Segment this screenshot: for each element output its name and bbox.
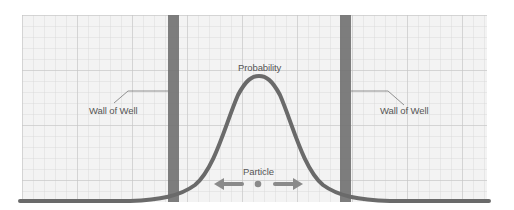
right-wall-label: Wall of Well <box>380 105 428 116</box>
right-wall <box>340 15 351 202</box>
left-wall <box>168 15 179 202</box>
particle-label: Particle <box>243 166 274 177</box>
quantum-well-diagram: Probability Particle Wall of Well Wall o… <box>0 0 514 210</box>
diagram-canvas <box>0 0 514 210</box>
probability-label: Probability <box>238 62 281 73</box>
left-wall-label: Wall of Well <box>89 105 137 116</box>
particle-dot <box>255 181 262 188</box>
